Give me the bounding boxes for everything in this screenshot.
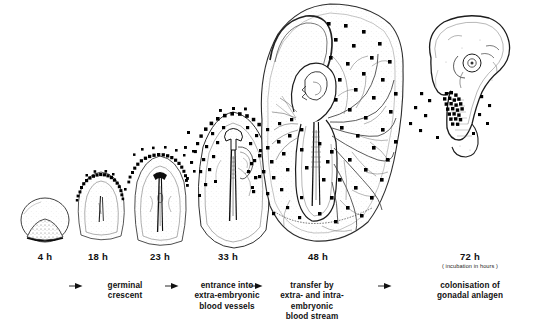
stage-label-72h: 72 h (460, 251, 480, 262)
right-arrow-icon (69, 282, 83, 291)
embryo-migration-figure: 4 h 18 h 23 h 33 h 48 h 72 h ( incubatio… (0, 0, 540, 326)
step-label-colonisation: colonisation of gonadal anlagen (435, 281, 505, 302)
stage-label-18h: 18 h (88, 251, 108, 262)
step-label-entrance-vessels: entrance into extra-embryonic blood vess… (194, 281, 259, 312)
right-arrow-icon (378, 282, 392, 291)
stage-18h-drawing (76, 170, 124, 240)
stage-4h-drawing (21, 198, 69, 242)
step-label-germinal-crescent: germinal crescent (108, 281, 143, 302)
stage-label-48h: 48 h (308, 251, 328, 262)
incubation-units-note: ( incubation in hours ) (442, 263, 498, 269)
stage-23h-drawing (124, 146, 196, 245)
step-label-transfer-blood-stream: transfer by extra- and intra- embryonic … (280, 281, 344, 323)
stage-label-4h: 4 h (38, 251, 52, 262)
stage-72h-drawing (409, 16, 510, 157)
embryo-stages-illustration (0, 0, 540, 326)
stage-label-23h: 23 h (150, 251, 170, 262)
right-arrow-icon (165, 282, 179, 291)
stage-48h-drawing (250, 4, 403, 241)
stage-label-33h: 33 h (218, 251, 238, 262)
